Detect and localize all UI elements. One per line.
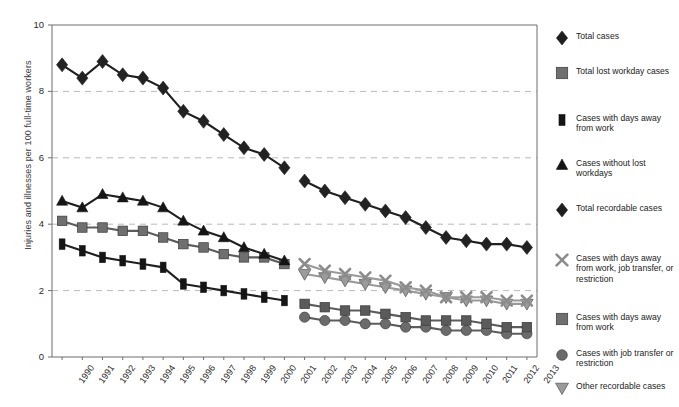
legend-item[interactable]: Other recordable cases — [553, 381, 679, 396]
legend-item[interactable]: Cases with job transfer or restriction — [553, 348, 679, 369]
legend-label: Total cases — [575, 31, 619, 41]
legend-label: Cases with days away from work — [575, 312, 679, 333]
legend-label: Cases with job transfer or restriction — [575, 348, 679, 369]
data-series-layer — [57, 55, 534, 339]
chart-figure: Injuries and illnesses per 100 full-time… — [0, 0, 679, 407]
triangle-down-icon — [553, 380, 575, 396]
y-tick-label: 2 — [18, 285, 44, 296]
y-tick-label: 6 — [18, 152, 44, 163]
y-tick-label: 4 — [18, 218, 44, 229]
legend-label: Cases with days away from work — [575, 113, 679, 134]
cropped-title-remnant — [0, 0, 679, 14]
legend-label: Cases without lost workdays — [575, 158, 679, 179]
y-tick-label: 8 — [18, 85, 44, 96]
series-diamond — [299, 174, 532, 254]
legend-item[interactable]: Total cases — [553, 31, 679, 46]
legend-label: Other recordable cases — [575, 381, 665, 391]
legend-item[interactable]: Total recordable cases — [553, 203, 679, 218]
y-tick-marks — [48, 25, 52, 357]
triangle-up-icon — [553, 157, 575, 173]
series-x — [300, 259, 532, 306]
diamond-icon — [553, 202, 575, 218]
legend-label: Cases with days away from work, job tran… — [575, 253, 679, 284]
legend-item[interactable]: Total lost workday cases — [553, 66, 679, 81]
legend-item[interactable]: Cases with days away from work — [553, 312, 679, 333]
square-narrow-icon — [553, 112, 575, 128]
chart-legend: Total casesTotal lost workday casesCases… — [553, 24, 679, 396]
series-square-narrow — [59, 239, 287, 306]
x-icon — [553, 252, 575, 268]
y-tick-label: 0 — [18, 351, 44, 362]
legend-item[interactable]: Cases with days away from work, job tran… — [553, 253, 679, 284]
y-tick-label: 10 — [18, 19, 44, 30]
legend-item[interactable]: Cases with days away from work — [553, 113, 679, 134]
series-diamond — [57, 55, 290, 175]
legend-item[interactable]: Cases without lost workdays — [553, 158, 679, 179]
circle-icon — [553, 347, 575, 363]
square-icon — [553, 311, 575, 327]
legend-label: Total lost workday cases — [575, 66, 669, 76]
legend-label: Total recordable cases — [575, 203, 662, 213]
square-icon — [553, 65, 575, 81]
diamond-icon — [553, 30, 575, 46]
